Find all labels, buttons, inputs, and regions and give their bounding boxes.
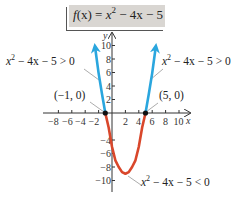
- annotation-right-positive: x2 − 4x − 5 > 0: [162, 55, 231, 67]
- svg-text:10: 10: [174, 116, 184, 127]
- svg-text:−2: −2: [89, 116, 100, 127]
- chart-title: f(x) = x2 − 4x − 5: [73, 7, 163, 23]
- label-point-neg1: (−1, 0): [54, 89, 85, 101]
- x-tick-labels: −8 −6 −4 −2 2 4 6 8 10: [48, 116, 184, 127]
- svg-text:−10: −10: [95, 175, 111, 186]
- svg-text:−8: −8: [100, 162, 111, 173]
- x-axis-label: x: [185, 115, 191, 126]
- svg-text:6: 6: [106, 67, 111, 78]
- annotation-left-positive: x2 − 4x − 5 > 0: [6, 55, 75, 67]
- label-point-5: (5, 0): [159, 89, 184, 101]
- svg-text:4: 4: [106, 81, 111, 92]
- svg-text:−6: −6: [62, 116, 73, 127]
- svg-text:4: 4: [136, 116, 141, 127]
- svg-text:6: 6: [150, 116, 155, 127]
- svg-text:−6: −6: [100, 148, 111, 159]
- svg-text:10: 10: [101, 40, 111, 51]
- point-neg1-0: [103, 110, 108, 115]
- svg-text:2: 2: [106, 94, 111, 105]
- point-5-0: [143, 110, 148, 115]
- svg-text:8: 8: [163, 116, 168, 127]
- svg-text:2: 2: [123, 116, 128, 127]
- svg-text:8: 8: [106, 54, 111, 65]
- annotation-negative: x2 − 4x − 5 < 0: [141, 176, 210, 188]
- curve-positive-left: [95, 48, 105, 113]
- curve-positive-right: [146, 48, 156, 113]
- svg-text:−8: −8: [48, 116, 59, 127]
- svg-text:−4: −4: [75, 116, 86, 127]
